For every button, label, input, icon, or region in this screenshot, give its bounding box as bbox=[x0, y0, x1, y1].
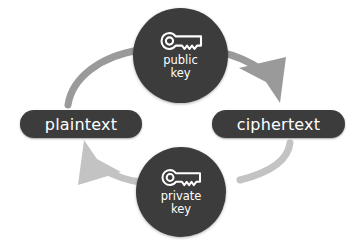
node-plaintext[interactable]: plaintext bbox=[20, 110, 142, 138]
node-ciphertext[interactable]: ciphertext bbox=[212, 110, 345, 138]
key-icon bbox=[158, 31, 204, 51]
plaintext-label: plaintext bbox=[45, 115, 117, 134]
private-key-label-line2: key bbox=[171, 203, 191, 216]
ciphertext-label: ciphertext bbox=[237, 115, 321, 134]
public-key-label-line2: key bbox=[170, 67, 190, 80]
node-public-key[interactable]: public key bbox=[133, 8, 228, 103]
key-icon bbox=[159, 168, 203, 187]
diagram-canvas: plaintext ciphertext public key private … bbox=[0, 0, 359, 242]
decrypt-arrow-tail bbox=[240, 143, 290, 180]
encrypt-arrow-tail bbox=[68, 50, 140, 105]
node-private-key[interactable]: private key bbox=[136, 147, 226, 237]
